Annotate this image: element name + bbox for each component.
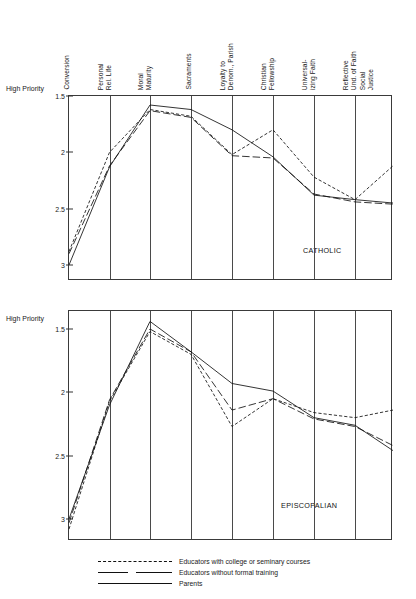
y-axis-title-catholic: High Priority — [3, 85, 47, 93]
category-label-line2: Fellowship — [267, 58, 275, 90]
category-label-line2: Rel. Life — [104, 63, 112, 90]
category-label-line1: Christian — [260, 58, 268, 90]
legend-item-2: Parents — [98, 578, 398, 589]
category-label-line2: Maturity — [144, 66, 152, 90]
category-label-5: ChristianFellowship — [260, 58, 275, 90]
category-label-3: Sacraments — [185, 54, 193, 90]
y-axis-title-line2: Priority — [22, 85, 44, 92]
chart-panel-episcopalian: High Priority EPISCOPALIAN 1.522.53 — [68, 310, 392, 540]
category-label-8: SocialJustice — [359, 69, 374, 90]
series-line-2 — [69, 321, 393, 519]
series-layer — [69, 96, 393, 281]
category-label-1: PersonalRel. Life — [96, 63, 111, 90]
figure-root: ConversionPersonalRel. LifeMoralMaturity… — [0, 0, 416, 599]
category-label-line1: Sacraments — [185, 54, 193, 90]
series-layer — [69, 311, 393, 541]
legend-item-1: Educators without formal training — [98, 567, 398, 578]
category-label-4: Loyalty toDenom., Parish — [219, 43, 234, 90]
category-label-group: ConversionPersonalRel. LifeMoralMaturity… — [0, 0, 416, 92]
legend-label-0: Educators with college or seminary cours… — [179, 556, 310, 567]
category-label-2: MoralMaturity — [137, 66, 152, 90]
category-label-line1: Social — [359, 69, 367, 90]
category-label-line1: Moral — [137, 66, 145, 90]
series-line-0 — [69, 110, 393, 252]
category-label-line2: izing Faith — [308, 59, 316, 90]
y-axis-title-episcopalian: High Priority — [3, 315, 47, 323]
category-label-line1: Universal- — [301, 59, 309, 90]
series-line-2 — [69, 105, 393, 265]
category-label-line2: Justice — [366, 69, 374, 90]
category-label-line1: Personal — [96, 63, 104, 90]
y-axis-title-line1: High — [6, 315, 20, 322]
category-label-7: ReflectiveUnd. of Faith — [342, 51, 357, 90]
legend-item-0: Educators with college or seminary cours… — [98, 556, 398, 567]
category-label-line1: Reflective — [342, 51, 350, 90]
category-label-0: Conversion — [63, 56, 71, 90]
y-axis-title-line2: Priority — [22, 315, 44, 322]
category-label-line2: Denom., Parish — [226, 43, 234, 90]
y-axis-title-line1: High — [6, 85, 20, 92]
series-line-1 — [69, 111, 393, 254]
category-label-6: Universal-izing Faith — [301, 59, 316, 90]
category-label-line1: Loyalty to — [219, 43, 227, 90]
chart-panel-catholic: High Priority CATHOLIC 1.522.53 — [68, 95, 392, 280]
category-label-line1: Conversion — [63, 56, 71, 90]
legend: Educators with college or seminary cours… — [98, 556, 398, 589]
category-label-line2: Und. of Faith — [349, 51, 357, 90]
series-line-0 — [69, 332, 393, 530]
series-line-1 — [69, 329, 393, 523]
legend-label-2: Parents — [179, 578, 202, 589]
legend-label-1: Educators without formal training — [179, 567, 278, 578]
